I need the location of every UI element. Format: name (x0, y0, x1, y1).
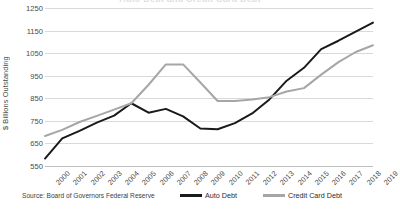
x-axis-tick-label: 2006 (157, 169, 175, 187)
x-axis-tick-label: 2007 (175, 169, 193, 187)
y-axis-tick-label: 850 (11, 94, 43, 103)
x-axis-tick-label: 2017 (347, 169, 365, 187)
y-axis-tick-label: 950 (11, 71, 43, 80)
chart-footer: Source: Board of Governors Federal Reser… (0, 192, 380, 214)
y-axis-tick-label: 1150 (11, 26, 43, 35)
legend-label: Auto Debt (205, 191, 237, 200)
x-axis-tick-label: 2009 (209, 169, 227, 187)
x-axis-tick-label: 2018 (365, 169, 383, 187)
x-axis-tick-label: 2012 (261, 169, 279, 187)
x-axis-tick-label: 2008 (192, 169, 210, 187)
legend-swatch (263, 194, 285, 196)
x-axis-tick-label: 2004 (123, 169, 141, 187)
x-axis-tick-label: 2002 (88, 169, 106, 187)
y-axis-tick-label: 650 (11, 139, 43, 148)
y-axis-tick-label: 1050 (11, 49, 43, 58)
x-axis-tick-label: 2005 (140, 169, 158, 187)
x-axis-tick-label: 2001 (71, 169, 89, 187)
series-layer (45, 8, 373, 166)
x-axis-tick-label: 2011 (244, 169, 262, 187)
x-axis-tick-label: 2015 (313, 169, 331, 187)
x-axis-tick-label: 2003 (106, 169, 124, 187)
series-line (45, 45, 373, 136)
x-axis-tick-label: 2000 (54, 169, 72, 187)
legend-label: Credit Card Debt (288, 191, 342, 200)
legend-item[interactable]: Auto Debt (180, 191, 237, 200)
legend-item[interactable]: Credit Card Debt (263, 191, 342, 200)
source-note: Source: Board of Governors Federal Reser… (22, 192, 155, 199)
x-axis-tick-label: 2013 (278, 169, 296, 187)
x-axis-tick-label: 2014 (295, 169, 313, 187)
y-axis-tick-label: 1250 (11, 4, 43, 13)
chart-legend: Auto DebtCredit Card Debt (180, 191, 342, 200)
x-axis-tick-label: 2019 (382, 169, 400, 187)
y-axis-tick-label: 750 (11, 116, 43, 125)
x-axis-tick-label: 2010 (226, 169, 244, 187)
x-axis-tick-label: 2016 (330, 169, 348, 187)
y-axis-tick-label: 550 (11, 162, 43, 171)
legend-swatch (180, 194, 202, 196)
plot-area (45, 8, 373, 166)
x-axis-line (45, 166, 373, 167)
chart-title: Auto Debt and Credit Card Debt (0, 0, 380, 4)
